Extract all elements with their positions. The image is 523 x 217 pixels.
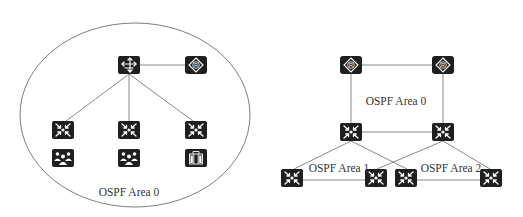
switch-icon (52, 121, 74, 139)
right-area0-label: OSPF Area 0 (366, 95, 427, 107)
server-building-icon (185, 149, 207, 167)
l3-switch-icon (118, 56, 140, 74)
router-icon (432, 56, 454, 74)
left-area0-label: OSPF Area 0 (99, 186, 160, 198)
switch-icon (118, 121, 140, 139)
router-icon (185, 56, 207, 74)
router-icon (340, 56, 362, 74)
user-group-icon (118, 149, 140, 167)
switch-icon (432, 123, 454, 141)
switch-icon (185, 121, 207, 139)
area0-boundary-ellipse (20, 23, 250, 207)
link-core-sw1 (66, 74, 129, 121)
switch-icon (480, 169, 502, 187)
left-topology: OSPF Area 0 (20, 23, 250, 207)
right-area1-label: OSPF Area 1 (309, 162, 370, 174)
switch-icon (340, 123, 362, 141)
link-core-sw3 (129, 74, 193, 121)
right-area2-label: OSPF Area 2 (421, 162, 482, 174)
user-group-icon (52, 149, 74, 167)
switch-icon (281, 169, 303, 187)
switch-icon (395, 169, 417, 187)
network-diagram: R (0, 0, 523, 217)
right-topology: OSPF Area 0 OSPF Area 1 OSPF Area 2 (281, 56, 502, 187)
